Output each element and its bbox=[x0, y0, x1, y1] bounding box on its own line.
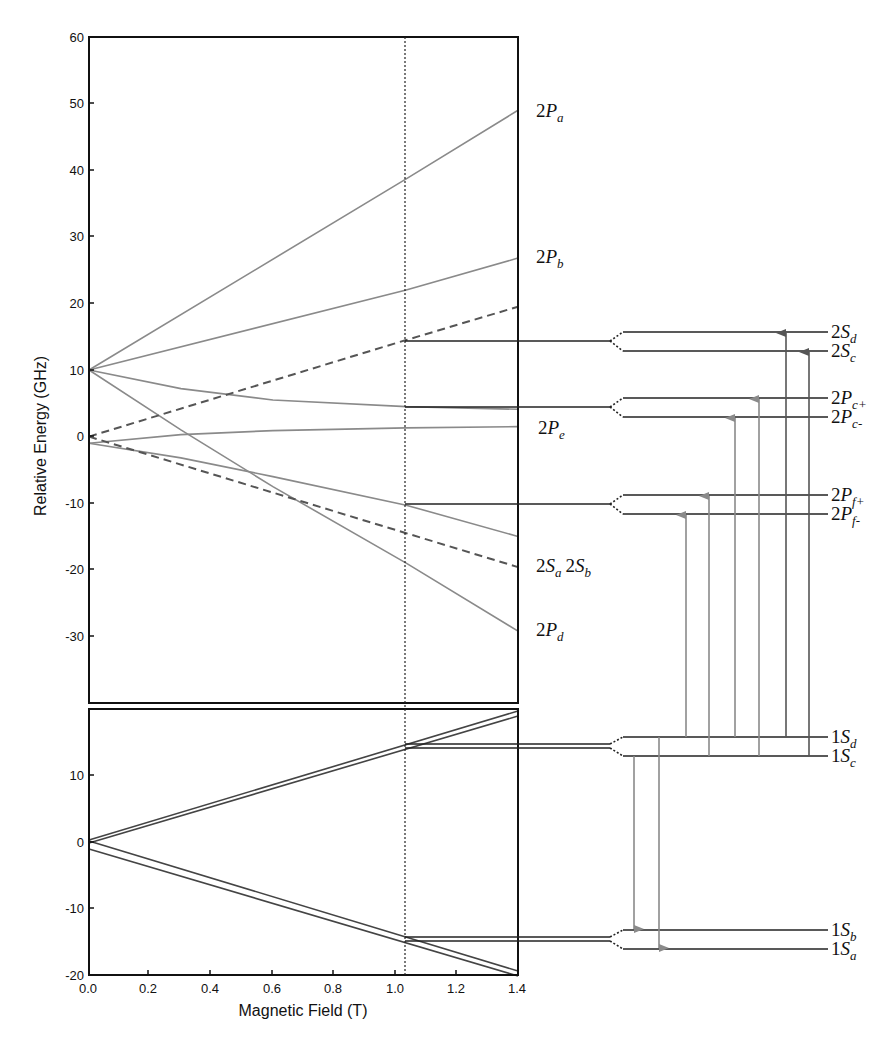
curve-1Sb bbox=[89, 841, 518, 971]
curve-1Sa bbox=[89, 849, 518, 976]
curve-2P-e bbox=[89, 427, 518, 444]
xtick-0.0: 0.0 bbox=[79, 981, 97, 996]
upper-panel bbox=[89, 37, 518, 703]
xtick-1.0: 1.0 bbox=[386, 981, 404, 996]
label-2Sa-2Sb: 2Sa2Sb bbox=[536, 555, 592, 580]
curve-2P-c bbox=[89, 370, 518, 409]
xtick-0.2: 0.2 bbox=[139, 981, 157, 996]
lower-ytick-neg10: -10 bbox=[65, 901, 84, 916]
xtick-0.4: 0.4 bbox=[201, 981, 219, 996]
xtick-0.8: 0.8 bbox=[324, 981, 342, 996]
ytick-60: 60 bbox=[70, 30, 84, 45]
curve-2P-b bbox=[89, 258, 518, 370]
ytick-40: 40 bbox=[70, 163, 84, 178]
ytick-0: 0 bbox=[77, 429, 84, 444]
curve-labels: 2Pa 2Pb 2Pe 2Sa2Sb 2Pd bbox=[536, 100, 592, 644]
lower-ytick-0: 0 bbox=[77, 835, 84, 850]
curve-1Sd bbox=[89, 711, 518, 840]
level-diagram bbox=[405, 332, 828, 949]
x-tick-labels: 0.0 0.2 0.4 0.6 0.8 1.0 1.2 1.4 bbox=[79, 981, 526, 996]
xtick-1.2: 1.2 bbox=[447, 981, 465, 996]
label-2Pe: 2Pe bbox=[538, 417, 565, 442]
label-2Pb: 2Pb bbox=[536, 246, 564, 271]
y-axis-title: Relative Energy (GHz) bbox=[32, 356, 49, 516]
ytick-30: 30 bbox=[70, 229, 84, 244]
curve-2P-d bbox=[89, 370, 518, 631]
ytick-neg10: -10 bbox=[65, 496, 84, 511]
label-2Pa: 2Pa bbox=[536, 100, 564, 125]
zeeman-energy-diagram: 60 50 40 30 20 10 0 -10 -20 -30 10 0 -10… bbox=[0, 0, 896, 1052]
lower-panel bbox=[89, 709, 518, 976]
curve-2S-a-2S-b bbox=[89, 437, 518, 567]
upper-frame bbox=[89, 37, 518, 703]
transition-arrows bbox=[634, 333, 809, 948]
level-labels: 2Sd 2Sc 2Pc+ 2Pc- 2Pf+ 2Pf- 1Sd 1Sc 1Sb … bbox=[831, 321, 867, 963]
curve-1Sc bbox=[89, 716, 518, 843]
ytick-20: 20 bbox=[70, 296, 84, 311]
x-axis-title: Magnetic Field (T) bbox=[239, 1002, 368, 1019]
curve-2P-f bbox=[89, 443, 518, 536]
ytick-neg20: -20 bbox=[65, 562, 84, 577]
upper-y-tick-labels: 60 50 40 30 20 10 0 -10 -20 -30 bbox=[65, 30, 84, 644]
ytick-50: 50 bbox=[70, 96, 84, 111]
lower-frame bbox=[89, 709, 518, 975]
ytick-neg30: -30 bbox=[65, 629, 84, 644]
xtick-0.6: 0.6 bbox=[263, 981, 281, 996]
lower-y-tick-labels: 10 0 -10 -20 bbox=[65, 768, 84, 983]
curve-2P-a bbox=[89, 110, 518, 370]
curve-2Pa-line bbox=[89, 103, 518, 111]
lower-ytick-10: 10 bbox=[70, 768, 84, 783]
label-2Pd: 2Pd bbox=[536, 619, 564, 644]
ytick-10: 10 bbox=[70, 363, 84, 378]
xtick-1.4: 1.4 bbox=[508, 981, 526, 996]
curve-2S-c-2S-d bbox=[89, 307, 518, 437]
